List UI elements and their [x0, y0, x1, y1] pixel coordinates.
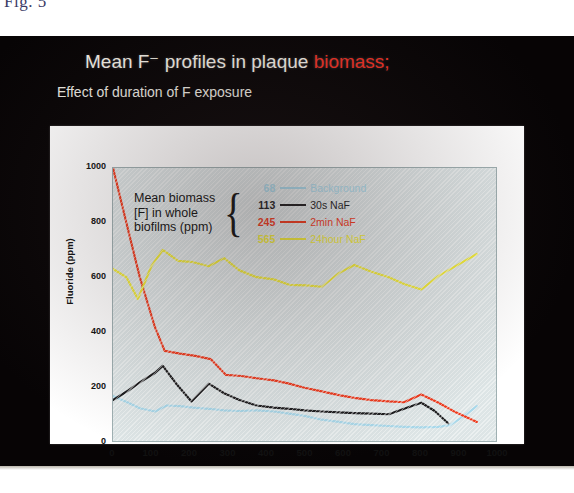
legend-item-value: 245	[249, 216, 275, 228]
x-tick-label: 800	[400, 447, 440, 458]
y-tick-label: 0	[66, 436, 106, 446]
legend-title: Mean biomass[F] in wholebiofilms (ppm)	[134, 191, 215, 235]
slide-title: Mean F⁻ profiles in plaque biomass;	[85, 50, 390, 73]
x-tick-label: 600	[323, 447, 363, 458]
figure-label: Fig. 5	[4, 0, 47, 12]
x-tick-label: 300	[208, 447, 248, 458]
x-tick-label: 900	[439, 447, 479, 458]
x-axis-ticks: 01002003004005006007008009001000	[112, 447, 497, 461]
chart-legend: Mean biomass[F] in wholebiofilms (ppm) {…	[134, 168, 394, 258]
legend-item: 68Background	[249, 180, 366, 196]
legend-title-line: Mean biomass	[134, 191, 215, 206]
line-series	[113, 366, 448, 423]
slide-subtitle: Effect of duration of F exposure	[57, 84, 252, 100]
legend-item-label: 24hour NaF	[310, 233, 365, 245]
y-axis-ticks: 02004006008001000	[58, 167, 106, 442]
legend-item-label: 2min NaF	[310, 216, 356, 228]
x-tick-label: 100	[131, 447, 171, 458]
chart-panel: Fluoride (ppm) 02004006008001000 0100200…	[50, 126, 524, 444]
legend-title-line: [F] in whole	[134, 206, 215, 221]
legend-item-label: 30s NaF	[310, 199, 350, 211]
legend-item: 11330s NaF	[249, 197, 366, 213]
x-tick-label: 0	[92, 447, 132, 458]
legend-item-value: 113	[249, 199, 275, 211]
legend-rows: 68Background11330s NaF2452min NaF56524ho…	[249, 180, 366, 247]
x-tick-label: 200	[169, 447, 209, 458]
legend-color-swatch	[280, 204, 306, 206]
y-tick-label: 1000	[66, 161, 106, 171]
legend-item-value: 68	[249, 182, 275, 194]
legend-item-label: Background	[310, 182, 366, 194]
line-series	[113, 396, 477, 427]
scanned-page: Fig. 5 Mean F⁻ profiles in plaque biomas…	[0, 0, 574, 493]
legend-color-swatch	[280, 187, 306, 189]
slide-title-plain: Mean F⁻ profiles in plaque	[85, 51, 314, 72]
x-tick-label: 500	[285, 447, 325, 458]
y-tick-label: 600	[66, 271, 106, 281]
legend-item-value: 565	[249, 233, 275, 245]
x-tick-label: 1000	[477, 447, 517, 458]
page-bottom-margin	[0, 466, 574, 493]
y-tick-label: 200	[66, 381, 106, 391]
legend-item: 56524hour NaF	[249, 231, 366, 247]
y-tick-label: 400	[66, 326, 106, 336]
legend-item: 2452min NaF	[249, 214, 366, 230]
legend-color-swatch	[280, 238, 306, 240]
x-tick-label: 400	[246, 447, 286, 458]
y-tick-label: 800	[66, 216, 106, 226]
presentation-slide: Mean F⁻ profiles in plaque biomass; Effe…	[0, 36, 574, 466]
legend-title-line: biofilms (ppm)	[134, 220, 215, 235]
x-tick-label: 700	[362, 447, 402, 458]
legend-color-swatch	[280, 221, 306, 223]
slide-title-highlight: biomass;	[314, 51, 390, 72]
